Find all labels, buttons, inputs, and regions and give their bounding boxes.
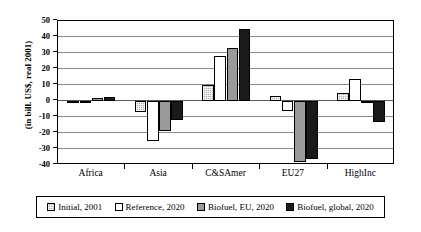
gridline	[58, 36, 393, 37]
legend-label: Biofuel, EU, 2020	[208, 202, 274, 212]
chart-legend: Initial, 2001Reference, 2020Biofuel, EU,…	[36, 196, 385, 218]
bar-highinc-reference-2020	[349, 79, 361, 101]
bar-c-samer-initial-2001	[202, 85, 214, 101]
bar-eu27-biofuel-global-2020	[306, 101, 318, 159]
bar-africa-reference-2020	[80, 101, 92, 103]
y-tick-label: 40	[8, 32, 50, 40]
bar-c-samer-biofuel-global-2020	[239, 29, 251, 101]
legend-item-biofuel-global-2020[interactable]: Biofuel, global, 2020	[286, 202, 374, 212]
gridline	[58, 132, 393, 133]
bar-c-samer-biofuel-eu-2020	[227, 48, 239, 101]
y-tick-label: 0	[8, 96, 50, 104]
y-tick-label: -30	[8, 144, 50, 152]
legend-item-reference-2020[interactable]: Reference, 2020	[115, 202, 185, 212]
legend-swatch-icon	[286, 203, 294, 211]
bar-highinc-biofuel-global-2020	[373, 101, 385, 122]
legend-label: Reference, 2020	[126, 202, 185, 212]
bar-eu27-initial-2001	[270, 96, 282, 101]
legend-label: Biofuel, global, 2020	[297, 202, 374, 212]
y-tick-label: -10	[8, 112, 50, 120]
bar-africa-biofuel-global-2020	[104, 97, 116, 101]
bar-asia-biofuel-global-2020	[171, 101, 183, 120]
bar-asia-biofuel-eu-2020	[159, 101, 171, 131]
bar-chart: (in bill. US$, real 2001) 50403020100-10…	[0, 0, 421, 232]
legend-swatch-icon	[47, 203, 55, 211]
legend-item-initial-2001[interactable]: Initial, 2001	[47, 202, 102, 212]
gridline	[58, 52, 393, 53]
bar-africa-biofuel-eu-2020	[92, 98, 104, 101]
bar-africa-initial-2001	[67, 101, 79, 103]
x-tick-label-c-samer: C&SAmer	[192, 168, 259, 178]
x-tick-label-asia: Asia	[124, 168, 191, 178]
bar-highinc-initial-2001	[337, 93, 349, 101]
bar-asia-reference-2020	[147, 101, 159, 141]
legend-label: Initial, 2001	[58, 202, 102, 212]
y-tick-label: 20	[8, 64, 50, 72]
y-tick-label: -20	[8, 128, 50, 136]
x-tick-label-africa: Africa	[57, 168, 124, 178]
gridline	[58, 116, 393, 117]
bar-highinc-biofuel-eu-2020	[361, 101, 373, 103]
bar-eu27-biofuel-eu-2020	[294, 101, 306, 162]
y-tick-label: 30	[8, 48, 50, 56]
bar-asia-initial-2001	[135, 101, 147, 112]
x-tick-label-eu27: EU27	[259, 168, 326, 178]
y-tick-label: -40	[8, 160, 50, 168]
gridline	[58, 148, 393, 149]
legend-item-biofuel-eu-2020[interactable]: Biofuel, EU, 2020	[197, 202, 274, 212]
y-tick-label: 10	[8, 80, 50, 88]
bar-eu27-reference-2020	[282, 101, 294, 111]
x-tick-label-highinc: HighInc	[327, 168, 394, 178]
plot-area	[57, 20, 394, 164]
legend-swatch-icon	[115, 203, 123, 211]
bar-c-samer-reference-2020	[214, 56, 226, 101]
y-tick-label: 50	[8, 16, 50, 24]
legend-swatch-icon	[197, 203, 205, 211]
